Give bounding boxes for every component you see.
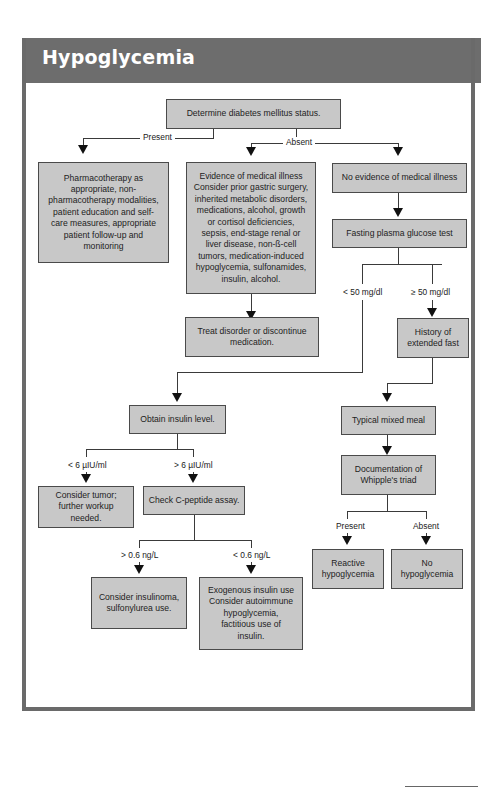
- connector: [426, 511, 427, 519]
- arrow-down-icon: [393, 208, 403, 217]
- connector: [251, 294, 252, 312]
- node-determine-status: Determine diabetes mellitus status.: [166, 99, 341, 129]
- node-exogenous-insulin: Exogenous insulin use Consider autoimmun…: [199, 577, 303, 650]
- branch-label-gt06: > 0.6 ng/L: [118, 550, 162, 560]
- arrow-down-icon: [421, 536, 431, 545]
- connector: [193, 449, 194, 457]
- connector: [86, 449, 87, 457]
- connector: [362, 300, 363, 372]
- arrow-down-icon: [342, 536, 352, 545]
- arrow-down-icon: [382, 446, 392, 455]
- footer-rule: [405, 786, 478, 787]
- node-consider-insulinoma: Consider insulinoma, sulfonylurea use.: [91, 577, 187, 629]
- arrow-down-icon: [246, 147, 256, 156]
- arrow-down-icon: [188, 474, 198, 483]
- branch-label-gt6: > 6 µIU/ml: [171, 460, 216, 470]
- connector: [251, 540, 252, 548]
- branch-label-lt6: < 6 µIU/ml: [65, 460, 110, 470]
- connector: [432, 264, 433, 284]
- node-pharmacotherapy: Pharmacotherapy as appropriate, non-phar…: [38, 162, 169, 263]
- connector: [398, 193, 399, 209]
- branch-label-absent: Absent: [283, 137, 315, 147]
- node-evidence-medical-illness: Evidence of medical illness Consider pri…: [186, 162, 316, 294]
- branch-label-whipple-present: Present: [333, 521, 368, 531]
- connector: [362, 264, 442, 265]
- node-whipple-triad: Documentation of Whipple's triad: [341, 455, 436, 495]
- connector: [177, 434, 178, 449]
- node-history-extended-fast: History of extended fast: [397, 318, 469, 358]
- connector: [251, 143, 398, 144]
- node-treat-disorder: Treat disorder or discontinue medication…: [185, 317, 319, 357]
- arrow-down-icon: [134, 565, 144, 574]
- connector: [86, 449, 194, 450]
- arrow-down-icon: [246, 565, 256, 574]
- arrow-down-icon: [81, 474, 91, 483]
- arrow-down-icon: [78, 145, 88, 154]
- node-reactive-hypoglycemia: Reactive hypoglycemia: [312, 549, 384, 589]
- node-no-evidence: No evidence of medical illness: [332, 163, 467, 193]
- connector: [432, 358, 433, 383]
- branch-label-ge50: ≥ 50 mg/dl: [408, 287, 453, 297]
- connector: [387, 383, 433, 384]
- connector: [139, 540, 140, 548]
- connector: [347, 511, 427, 512]
- connector: [387, 495, 388, 511]
- connector: [177, 372, 178, 394]
- connector: [139, 540, 252, 541]
- connector: [177, 372, 363, 373]
- branch-label-lt06: < 0.6 ng/L: [230, 550, 274, 560]
- node-no-hypoglycemia: No hypoglycemia: [391, 549, 463, 589]
- branch-label-whipple-absent: Absent: [410, 521, 442, 531]
- arrow-down-icon: [393, 147, 403, 156]
- connector: [398, 248, 399, 264]
- connector: [347, 511, 348, 519]
- node-consider-tumor: Consider tumor; further workup needed.: [38, 486, 134, 528]
- node-obtain-insulin: Obtain insulin level.: [129, 405, 226, 434]
- arrow-down-icon: [172, 393, 182, 402]
- arrow-down-icon: [382, 393, 392, 402]
- connector: [362, 264, 363, 284]
- branch-label-present: Present: [140, 132, 175, 142]
- node-check-cpeptide: Check C-peptide assay.: [143, 486, 245, 515]
- arrow-down-icon: [427, 308, 437, 317]
- branch-label-lt50: < 50 mg/dl: [340, 287, 385, 297]
- node-fasting-glucose: Fasting plasma glucose test: [332, 219, 467, 248]
- node-typical-mixed-meal: Typical mixed meal: [341, 406, 436, 435]
- connector: [213, 128, 214, 138]
- connector: [194, 515, 195, 540]
